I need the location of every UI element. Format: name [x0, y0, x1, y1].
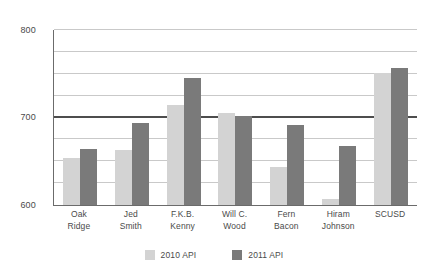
bar-group	[63, 30, 97, 205]
bar	[235, 116, 252, 205]
chart-legend: 2010 API2011 API	[0, 250, 428, 260]
bar	[374, 73, 391, 205]
bar	[270, 167, 287, 205]
bar-group	[322, 30, 356, 205]
bar	[167, 105, 184, 205]
legend-swatch	[145, 250, 155, 260]
bar-group	[218, 30, 252, 205]
bar	[80, 149, 97, 205]
x-axis-label: JedSmith	[105, 209, 157, 247]
y-axis-tick-600: 600	[2, 201, 36, 210]
bar	[63, 158, 80, 205]
bar	[339, 146, 356, 206]
y-axis-tick-700: 700	[2, 113, 36, 122]
x-axis-label: FernBacon	[260, 209, 312, 247]
bar	[218, 113, 235, 205]
bar-chart: 800 700 600 OakRidgeJedSmithF.K.B.KennyW…	[0, 0, 428, 274]
bar	[184, 78, 201, 205]
y-axis-tick-800: 800	[2, 26, 36, 35]
x-axis-labels: OakRidgeJedSmithF.K.B.KennyWill C.WoodFe…	[53, 209, 416, 247]
bar	[132, 123, 149, 205]
bar-group	[374, 30, 408, 205]
bar-group	[167, 30, 201, 205]
legend-item: 2010 API	[145, 250, 197, 260]
bar	[115, 150, 132, 205]
bar	[391, 68, 408, 205]
bar	[322, 199, 339, 205]
x-axis-label: OakRidge	[53, 209, 105, 247]
x-axis-label: Will C.Wood	[209, 209, 261, 247]
x-axis-label: F.K.B.Kenny	[157, 209, 209, 247]
bar	[287, 125, 304, 205]
plot-area	[53, 30, 417, 206]
bar-group	[270, 30, 304, 205]
legend-label: 2011 API	[248, 250, 283, 260]
legend-item: 2011 API	[232, 250, 283, 260]
bar-groups	[54, 30, 417, 205]
bar-group	[115, 30, 149, 205]
x-axis-label: HiramJohnson	[312, 209, 364, 247]
legend-swatch	[232, 250, 242, 260]
x-axis-label: SCUSD	[364, 209, 416, 247]
legend-label: 2010 API	[161, 250, 197, 260]
